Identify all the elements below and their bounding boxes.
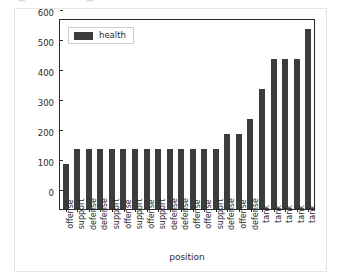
y-axis-tick-label: 100 — [38, 159, 60, 168]
x-axis-title: position — [59, 252, 315, 262]
toolbar-glyph: ▬ — [18, 0, 26, 4]
plot-area: 0100200300400500600offensesupportdefense… — [60, 20, 314, 209]
y-axis-tick-label: 300 — [38, 99, 60, 108]
y-axis-tick: 600 — [38, 1, 60, 20]
bar — [247, 119, 253, 209]
y-axis-tick: 400 — [38, 61, 60, 80]
y-axis-tick: 100 — [38, 151, 60, 170]
y-axis-tick-label: 400 — [38, 69, 60, 78]
bar — [259, 89, 265, 209]
y-axis-tick-mark — [60, 100, 63, 101]
y-axis-tick-mark — [60, 130, 63, 131]
chart-axes: 0100200300400500600offensesupportdefense… — [59, 19, 315, 210]
y-axis-tick-label: 0 — [49, 189, 60, 198]
y-axis-tick-label: 500 — [38, 39, 60, 48]
legend-label-health: health — [99, 31, 126, 40]
y-axis-tick-mark — [60, 160, 63, 161]
bar — [271, 59, 277, 209]
legend-swatch-health — [74, 32, 93, 40]
bar — [236, 134, 242, 209]
y-axis-tick: 200 — [38, 121, 60, 140]
toolbar-glyph: · — [103, 0, 106, 4]
y-axis-tick-mark — [60, 70, 63, 71]
y-axis-tick-mark — [60, 10, 63, 11]
x-axis-tick-label: tank — [308, 205, 317, 223]
y-axis-tick-label: 600 — [38, 9, 60, 18]
bar — [282, 59, 288, 209]
y-axis-tick: 500 — [38, 31, 60, 50]
y-axis-tick: 300 — [38, 91, 60, 110]
y-axis-tick-label: 200 — [38, 129, 60, 138]
chart-figure: 0100200300400500600offensesupportdefense… — [14, 8, 327, 272]
toolbar-glyph: ▬ — [86, 0, 94, 4]
bar — [294, 59, 300, 209]
bar — [305, 29, 311, 209]
chart-legend: health — [68, 27, 134, 44]
y-axis-tick-mark — [60, 40, 63, 41]
toolbar-glyph: · — [69, 0, 72, 4]
y-axis-tick: 0 — [49, 181, 60, 200]
